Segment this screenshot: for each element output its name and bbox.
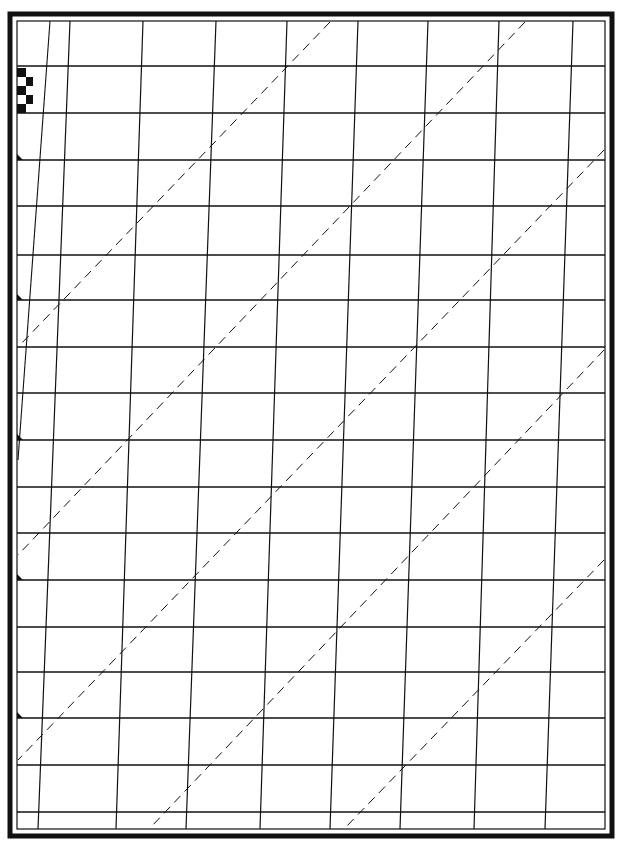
practice-sheet [0,0,621,842]
nib-width-square [26,95,33,104]
nib-width-square [17,86,26,95]
paper-background [0,0,621,842]
nib-width-square [26,77,33,86]
guide-sheet-canvas [0,0,621,842]
nib-width-square [17,68,26,77]
nib-width-square [17,104,26,113]
